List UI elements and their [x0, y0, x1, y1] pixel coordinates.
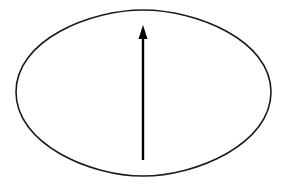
arrow-icon	[139, 25, 148, 160]
arrow-head	[139, 25, 148, 39]
diagram-canvas	[0, 0, 283, 184]
diagram-svg	[0, 0, 283, 184]
